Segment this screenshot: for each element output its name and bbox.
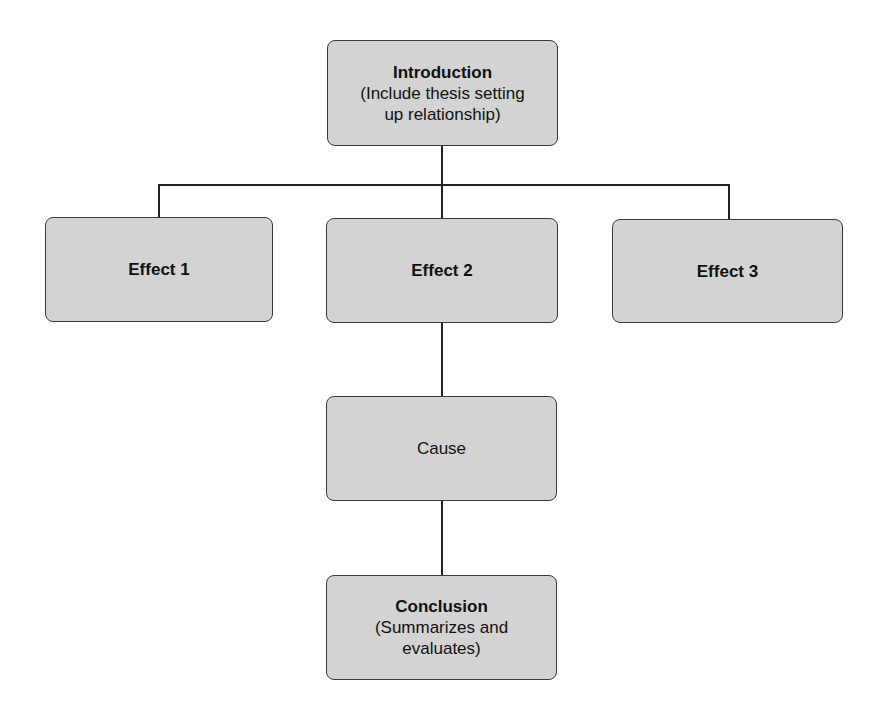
connector-to-effect1	[158, 184, 160, 218]
node-effect1: Effect 1	[45, 217, 273, 322]
node-effect3: Effect 3	[612, 219, 843, 323]
node-introduction-title: Introduction	[393, 62, 492, 83]
node-cause: Cause	[326, 396, 557, 501]
node-introduction-subtitle-2: up relationship)	[384, 104, 500, 125]
connector-effect2-to-cause	[441, 323, 443, 396]
node-conclusion: Conclusion (Summarizes and evaluates)	[326, 575, 557, 680]
node-effect3-title: Effect 3	[697, 261, 758, 282]
node-effect1-title: Effect 1	[128, 259, 189, 280]
connector-to-effect2	[441, 184, 443, 218]
connector-intro-down	[441, 146, 443, 185]
node-conclusion-title: Conclusion	[395, 596, 488, 617]
connector-to-effect3	[728, 184, 730, 219]
node-conclusion-subtitle-2: evaluates)	[402, 638, 480, 659]
node-conclusion-subtitle-1: (Summarizes and	[375, 617, 508, 638]
connector-cause-to-conclusion	[441, 501, 443, 575]
node-cause-title: Cause	[417, 438, 466, 459]
node-introduction-subtitle-1: (Include thesis setting	[360, 83, 524, 104]
node-effect2: Effect 2	[326, 218, 558, 323]
node-introduction: Introduction (Include thesis setting up …	[327, 40, 558, 146]
node-effect2-title: Effect 2	[411, 260, 472, 281]
connector-branch-horizontal	[158, 184, 729, 186]
